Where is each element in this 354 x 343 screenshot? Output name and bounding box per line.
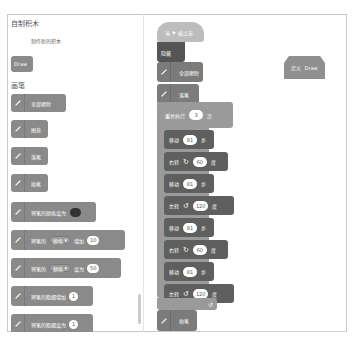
turn-right-block[interactable]: 右转↻60度 bbox=[164, 240, 228, 259]
degrees-input[interactable]: 60 bbox=[193, 245, 207, 255]
turn-right-block[interactable]: 右转↻60度 bbox=[164, 152, 228, 171]
pen-icon bbox=[11, 147, 25, 165]
color-swatch[interactable] bbox=[70, 208, 81, 217]
move-steps-block[interactable]: 移动81步 bbox=[164, 262, 214, 281]
degrees-input[interactable]: 60 bbox=[193, 157, 207, 167]
degrees-input[interactable]: 120 bbox=[193, 289, 209, 299]
pen-icon bbox=[157, 84, 171, 104]
move-steps-block[interactable]: 移动81步 bbox=[164, 130, 214, 149]
move-steps-block[interactable]: 移动81步 bbox=[164, 174, 214, 193]
script-block-pen-down[interactable]: 落笔 bbox=[157, 84, 199, 104]
hide-block[interactable]: 隐藏 bbox=[157, 42, 185, 62]
value-input[interactable]: 50 bbox=[87, 264, 99, 273]
palette-scrollbar[interactable] bbox=[138, 294, 141, 324]
pen-icon bbox=[11, 230, 25, 250]
pen-icon bbox=[11, 258, 25, 278]
rotate-clockwise-icon: ↻ bbox=[183, 158, 189, 166]
repeat-count-input[interactable]: 3 bbox=[189, 110, 203, 120]
rotate-counterclockwise-icon: ↺ bbox=[183, 290, 189, 298]
palette-block-pen-up[interactable]: 抬笔 bbox=[11, 174, 48, 192]
turn-left-block[interactable]: 左转↺120度 bbox=[164, 196, 234, 215]
pen-icon bbox=[11, 174, 25, 192]
loop-arrow-icon: ↺ bbox=[208, 301, 213, 308]
repeat-block-footer[interactable]: ↺ bbox=[157, 298, 217, 310]
palette-block-erase-all[interactable]: 全部擦除 bbox=[11, 94, 66, 112]
pen-icon bbox=[11, 202, 25, 222]
script-block-pen-up[interactable]: 抬笔 bbox=[157, 310, 197, 331]
palette-block-set-pen-color[interactable]: 将笔的颜色设为 bbox=[11, 202, 96, 222]
pen-icon bbox=[11, 286, 25, 306]
value-input[interactable]: 1 bbox=[69, 292, 78, 301]
palette-block-set-pen-param[interactable]: 将笔的 颜色 ▾ 设为 50 bbox=[11, 258, 121, 278]
palette-block-set-pen-size[interactable]: 将笔的粗细设为 1 bbox=[11, 314, 93, 332]
palette-block-change-pen-size[interactable]: 将笔的粗细增加 1 bbox=[11, 286, 93, 306]
block-palette[interactable]: 自制积木 制作新的积木 Draw 画笔 全部擦除 图章 落笔 抬笔 将笔的颜色设… bbox=[7, 14, 144, 332]
rotate-counterclockwise-icon: ↺ bbox=[183, 202, 189, 210]
divider bbox=[200, 331, 346, 332]
value-input[interactable]: 10 bbox=[87, 236, 99, 245]
palette-block-draw[interactable]: Draw bbox=[11, 56, 33, 72]
value-input[interactable]: 1 bbox=[69, 320, 78, 329]
param-dropdown[interactable]: 颜色 ▾ bbox=[49, 264, 71, 272]
steps-input[interactable]: 81 bbox=[183, 135, 197, 145]
palette-block-pen-down[interactable]: 落笔 bbox=[11, 147, 48, 165]
steps-input[interactable]: 81 bbox=[183, 179, 197, 189]
when-flag-clicked-block[interactable]: 当 ⚑ 被点击 bbox=[157, 22, 204, 42]
script-block-erase-all[interactable]: 全部擦除 bbox=[157, 62, 203, 82]
pen-icon bbox=[157, 62, 171, 82]
category-title-pen: 画笔 bbox=[11, 80, 25, 90]
param-dropdown[interactable]: 颜色 ▾ bbox=[49, 236, 71, 244]
pen-icon bbox=[11, 314, 25, 332]
degrees-input[interactable]: 120 bbox=[193, 201, 209, 211]
pen-icon bbox=[11, 120, 25, 138]
rotate-clockwise-icon: ↻ bbox=[183, 246, 189, 254]
palette-block-change-pen-param[interactable]: 将笔的 颜色 ▾ 增加 10 bbox=[11, 230, 125, 250]
category-title-my-blocks: 自制积木 bbox=[11, 18, 39, 28]
pen-icon bbox=[11, 94, 25, 112]
pen-icon bbox=[157, 310, 171, 331]
make-block-button[interactable]: 制作新的积木 bbox=[15, 34, 77, 46]
steps-input[interactable]: 81 bbox=[183, 267, 197, 277]
define-draw-block[interactable]: 定义 Draw bbox=[284, 56, 325, 79]
steps-input[interactable]: 81 bbox=[183, 223, 197, 233]
move-steps-block[interactable]: 移动81步 bbox=[164, 218, 214, 237]
repeat-block-header[interactable]: 重复执行 3 次 bbox=[157, 102, 233, 128]
palette-block-stamp[interactable]: 图章 bbox=[11, 120, 48, 138]
